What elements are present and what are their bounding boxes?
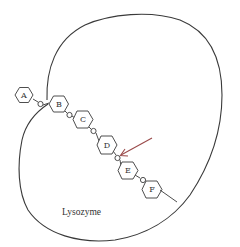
sugar-unit-c: C	[73, 111, 93, 128]
oxygen-link-ab	[38, 101, 43, 106]
sugar-label-a: A	[20, 91, 27, 100]
sugar-unit-f: F	[142, 181, 162, 198]
sugar-unit-e: E	[118, 162, 138, 179]
sugar-unit-b: B	[49, 96, 69, 112]
oxygen-link-bc	[67, 112, 72, 117]
cleavage-arrow-icon	[121, 138, 153, 156]
lysozyme-outline	[19, 14, 222, 241]
sugar-label-f: F	[149, 185, 155, 194]
lysozyme-diagram: A B C D E F Lysozyme	[0, 0, 240, 247]
oxygen-link-ef	[140, 177, 145, 182]
enzyme-label: Lysozyme	[62, 207, 101, 217]
sugar-unit-d: D	[97, 136, 117, 154]
oxygen-link-cd	[91, 128, 96, 133]
sugar-label-d: D	[104, 141, 110, 150]
sugar-label-c: C	[80, 115, 86, 124]
sugar-label-b: B	[56, 100, 62, 109]
sugar-unit-a: A	[15, 88, 33, 103]
sugar-label-e: E	[125, 166, 131, 175]
outline-crossing-tick	[160, 190, 177, 202]
oxygen-link-de	[115, 155, 120, 160]
